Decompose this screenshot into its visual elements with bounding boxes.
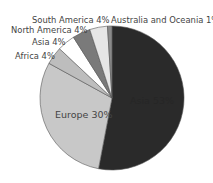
pie-chart: South America 4% Australia and Oceania 1…: [0, 0, 213, 183]
label-north-america: North America 4%: [11, 25, 88, 35]
label-africa: Africa 4%: [15, 51, 55, 61]
label-dark-slice: Asia 53%: [130, 95, 174, 106]
label-australia-oceania: Australia and Oceania 1%: [111, 15, 213, 25]
label-asia-small: Asia 4%: [32, 37, 66, 47]
label-south-america: South America 4%: [32, 15, 110, 25]
label-europe: Europe 30%: [55, 109, 113, 120]
